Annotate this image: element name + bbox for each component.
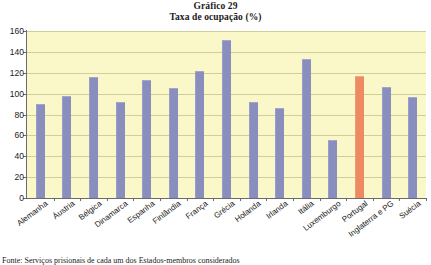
y-tick-label: 100 (2, 90, 24, 98)
bar (382, 87, 391, 198)
bar (222, 40, 231, 198)
bar (116, 102, 125, 198)
chart-title: Gráfico 29 (0, 1, 431, 12)
y-tick-label: 40 (2, 152, 24, 160)
bar (302, 59, 311, 198)
y-tick-label: 140 (2, 48, 24, 56)
y-tick-label: 160 (2, 27, 24, 35)
bar (62, 96, 71, 198)
bar (355, 76, 364, 198)
bar (89, 77, 98, 198)
bar (142, 80, 151, 198)
y-tick-label: 60 (2, 131, 24, 139)
chart-title-block: Gráfico 29 Taxa de ocupação (%) (0, 1, 431, 23)
chart-container: Gráfico 29 Taxa de ocupação (%) 02040608… (0, 0, 431, 265)
bar (36, 104, 45, 198)
y-tick-label: 20 (2, 173, 24, 181)
x-tick-label: Suécia (372, 199, 422, 240)
source-note: Fonte: Serviços prisionais de cada um do… (2, 256, 240, 265)
bar (408, 97, 417, 198)
bar (249, 102, 258, 198)
bars-layer (27, 31, 426, 198)
y-tick-label: 80 (2, 111, 24, 119)
y-tick-label: 120 (2, 69, 24, 77)
y-axis-ticks: 020406080100120140160 (0, 31, 24, 198)
bar (195, 71, 204, 198)
bar (275, 108, 284, 198)
bar (328, 140, 337, 198)
x-axis-labels: AlemanhaÁustriaBélgicaDinamarcaEspanhaFi… (0, 199, 431, 255)
bar (169, 88, 178, 198)
chart-subtitle: Taxa de ocupação (%) (0, 12, 431, 23)
